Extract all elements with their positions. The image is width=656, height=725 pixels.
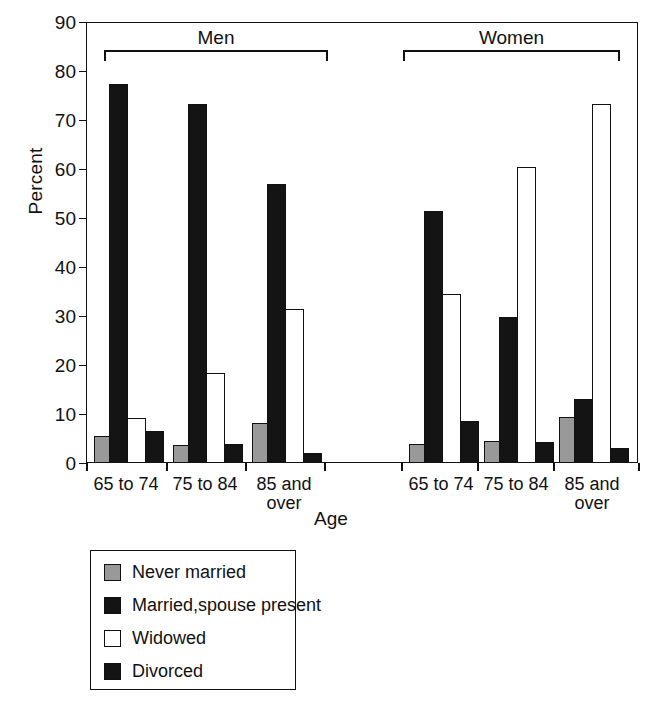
x-axis-tick-mark — [477, 463, 479, 471]
men-group-bracket — [104, 50, 328, 61]
x-axis-tick-mark — [553, 463, 555, 471]
bar — [442, 294, 461, 463]
bar — [94, 436, 110, 463]
legend-item: Never married — [104, 562, 246, 583]
bracket-line — [403, 50, 620, 52]
legend-item: Widowed — [104, 628, 206, 649]
legend-item: Married,spouse present — [104, 595, 321, 616]
bar — [145, 431, 164, 463]
y-axis-tick-label: 50 — [30, 209, 76, 228]
bar — [409, 444, 425, 463]
bar — [517, 167, 536, 463]
x-axis-title: Age — [314, 508, 348, 530]
bar — [188, 104, 207, 463]
y-axis-tick-mark — [79, 414, 86, 415]
bar — [206, 373, 225, 463]
y-axis-tick-mark — [79, 169, 86, 170]
y-axis-tick-mark — [79, 267, 86, 268]
y-axis-tick-mark — [79, 316, 86, 317]
women-group-label: Women — [403, 27, 620, 49]
divorced-swatch — [104, 663, 121, 680]
bar — [252, 423, 268, 463]
x-axis-tick-mark — [638, 463, 640, 471]
x-axis-tick-label: 85 andover — [537, 475, 647, 514]
y-axis-tick-mark — [79, 120, 86, 121]
widowed-swatch — [104, 630, 121, 647]
plot-area — [86, 22, 638, 463]
legend-item: Divorced — [104, 661, 203, 682]
y-axis-title: Percent — [25, 111, 47, 251]
y-axis-tick-label: 90 — [30, 13, 76, 32]
y-axis-tick-label: 20 — [30, 356, 76, 375]
y-axis-tick-mark — [79, 365, 86, 366]
bracket-cap-right — [618, 50, 620, 61]
bar — [267, 184, 286, 463]
bar — [109, 84, 128, 463]
bar — [484, 441, 500, 463]
married-spouse-present-swatch — [104, 597, 121, 614]
bracket-line — [104, 50, 328, 52]
women-group-bracket — [403, 50, 620, 61]
bar — [285, 309, 304, 463]
chart-figure: Percent 9080706050403020100 65 to 7475 t… — [0, 0, 656, 725]
x-axis-tick-mark — [245, 463, 247, 471]
bar — [559, 417, 575, 463]
bar — [610, 448, 629, 463]
y-axis-tick-mark — [79, 71, 86, 72]
x-axis-tick-mark — [86, 463, 88, 471]
bracket-cap-right — [326, 50, 328, 61]
legend-item-label: Married,spouse present — [132, 595, 321, 616]
x-axis-tick-mark — [166, 463, 168, 471]
x-axis-tick-mark — [324, 463, 326, 471]
y-axis-tick-mark — [79, 463, 86, 464]
y-axis-tick-label: 30 — [30, 307, 76, 326]
bar — [535, 442, 554, 463]
bar — [499, 317, 518, 463]
y-axis-tick-label: 70 — [30, 111, 76, 130]
bar — [127, 418, 146, 463]
y-axis-tick-label: 0 — [30, 454, 76, 473]
y-axis-tick-mark — [79, 22, 86, 23]
y-axis-tick-label: 40 — [30, 258, 76, 277]
bar — [460, 421, 479, 463]
men-group-label: Men — [104, 27, 328, 49]
y-axis-tick-label: 10 — [30, 405, 76, 424]
legend-item-label: Widowed — [132, 628, 206, 649]
y-axis-tick-label: 60 — [30, 160, 76, 179]
bracket-cap-left — [403, 50, 405, 61]
y-axis-tick-label: 80 — [30, 62, 76, 81]
bracket-cap-left — [104, 50, 106, 61]
legend-item-label: Divorced — [132, 661, 203, 682]
bar — [574, 399, 593, 463]
y-axis-tick-mark — [79, 218, 86, 219]
x-axis-tick-mark — [401, 463, 403, 471]
legend-item-label: Never married — [132, 562, 246, 583]
bar — [224, 444, 243, 463]
never-married-swatch — [104, 564, 121, 581]
bar — [173, 445, 189, 463]
bar — [592, 104, 611, 463]
bar — [424, 211, 443, 463]
bar — [303, 453, 322, 463]
